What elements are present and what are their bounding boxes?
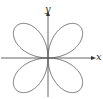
polar-rose-diagram: y x [0, 0, 103, 99]
y-axis-label: y [45, 4, 51, 14]
rose-curve-plot [0, 0, 103, 99]
x-axis-label: x [96, 52, 102, 62]
